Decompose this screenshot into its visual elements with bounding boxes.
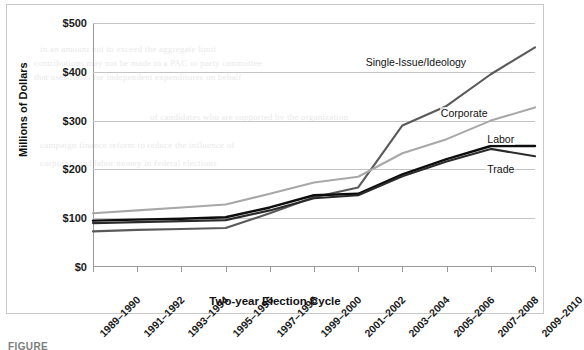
x-tick-mark — [93, 267, 94, 272]
x-tick-mark — [535, 267, 536, 272]
y-tick-label: $200 — [63, 163, 87, 175]
y-tick-label: $100 — [63, 212, 87, 224]
y-tick-label: $300 — [63, 115, 87, 127]
x-tick-mark — [491, 267, 492, 272]
series-label-single-issue-ideology: Single-Issue/Ideology — [365, 56, 467, 68]
series-label-trade: Trade — [486, 163, 515, 175]
plot-area: $0$100$200$300$400$500 1989–19901991–199… — [93, 23, 535, 267]
y-tick-label: $400 — [63, 66, 87, 78]
x-tick-mark — [270, 267, 271, 272]
series-lines — [93, 23, 535, 267]
y-tick-label: $0 — [75, 261, 87, 273]
x-tick-label: 2009–2010 — [539, 294, 584, 340]
y-tick-label: $500 — [63, 17, 87, 29]
series-label-labor: Labor — [486, 133, 515, 145]
series-label-corporate: Corporate — [440, 107, 489, 119]
x-tick-mark — [358, 267, 359, 272]
x-tick-mark — [226, 267, 227, 272]
x-axis-title: Two-year Election Cycle — [7, 295, 543, 307]
x-tick-mark — [181, 267, 182, 272]
chart-container: Millions of Dollars $0$100$200$300$400$5… — [6, 4, 544, 314]
series-line — [93, 149, 535, 223]
series-line — [93, 47, 535, 231]
x-tick-mark — [447, 267, 448, 272]
x-tick-mark — [137, 267, 138, 272]
figure-caption: FIGURE — [8, 341, 48, 350]
x-tick-mark — [402, 267, 403, 272]
y-axis-title: Millions of Dollars — [17, 62, 29, 157]
x-tick-mark — [314, 267, 315, 272]
